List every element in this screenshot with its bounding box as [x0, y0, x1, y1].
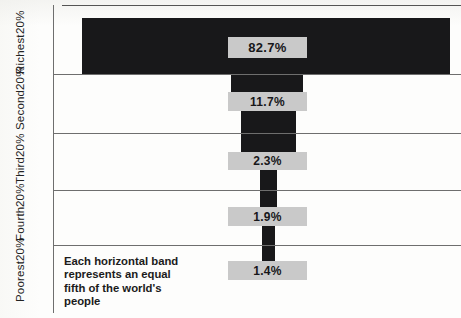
band-label-fourth-name: Fourth — [14, 207, 26, 241]
band-label-poorest-share: 20% — [14, 237, 26, 261]
bar-poorest-upper-stem — [262, 245, 275, 261]
band-label-third-share: 20% — [14, 133, 26, 157]
band-label-poorest: Poorest 20% — [14, 252, 26, 302]
category-axis-line — [53, 5, 54, 313]
band-label-third: Third 20% — [14, 142, 26, 184]
band-rule-fourth-poorest — [53, 245, 461, 246]
band-rule-second-third — [53, 133, 461, 134]
bar-fourth-lower-stem — [262, 226, 275, 245]
bar-second-lower-stem — [241, 111, 296, 133]
bar-second-upper-stem — [231, 74, 303, 92]
band-rule-richest-second — [53, 74, 461, 75]
value-label-richest: 82.7% — [228, 37, 307, 58]
chart-annotation-line-1: Each horizontal band — [64, 255, 178, 267]
band-label-richest-share: 20% — [14, 11, 26, 35]
band-rule-top — [62, 5, 461, 6]
value-label-fourth: 1.9% — [228, 207, 307, 226]
bar-third-lower-stem — [260, 170, 277, 190]
band-label-poorest-name: Poorest — [14, 261, 26, 302]
value-label-second: 11.7% — [228, 92, 307, 111]
band-rule-third-fourth — [53, 190, 461, 191]
bar-fourth-upper-stem — [260, 190, 277, 207]
band-label-second-share: 20% — [14, 66, 26, 90]
band-label-fourth: Fourth 20% — [14, 197, 26, 241]
band-label-second: Second 20% — [14, 80, 26, 130]
income-distribution-chart: Richest 20% Second 20% Third 20% Fourth … — [0, 0, 461, 318]
bar-third-upper-stem — [241, 133, 296, 152]
band-label-second-name: Second — [14, 90, 26, 130]
chart-annotation-line-2: represents an equal — [64, 268, 171, 280]
band-label-third-name: Third — [14, 157, 26, 184]
band-label-fourth-share: 20% — [14, 183, 26, 207]
value-label-poorest: 1.4% — [228, 261, 307, 280]
chart-annotation-line-4: people — [64, 295, 100, 307]
value-label-third: 2.3% — [228, 152, 307, 170]
chart-annotation: Each horizontal band represents an equal… — [64, 255, 186, 309]
chart-annotation-line-3: fifth of the world's — [64, 282, 161, 294]
